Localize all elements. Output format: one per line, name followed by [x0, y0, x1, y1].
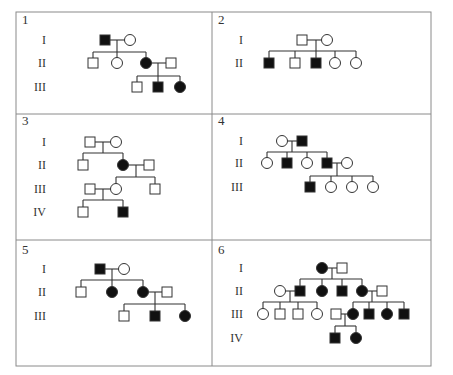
affected-female-circle-icon	[138, 287, 149, 298]
generation-label: II	[38, 56, 46, 70]
unaffected-male-square-icon	[78, 207, 88, 217]
generation-label: II	[38, 285, 46, 299]
unaffected-female-circle-icon	[330, 58, 341, 69]
affected-female-circle-icon	[141, 58, 152, 69]
affected-female-circle-icon	[317, 286, 328, 297]
unaffected-female-circle-icon	[275, 286, 286, 297]
generation-label: IV	[33, 205, 46, 219]
generation-label: I	[239, 261, 243, 275]
generation-label: IV	[230, 331, 243, 345]
pedigree-panel-6: 6IIIIIIIV	[218, 242, 409, 345]
unaffected-female-circle-icon	[326, 182, 337, 193]
affected-male-square-icon	[364, 309, 374, 319]
generation-label: I	[42, 33, 46, 47]
unaffected-male-square-icon	[377, 286, 387, 296]
panel-number: 4	[218, 113, 225, 128]
generation-label: III	[34, 182, 46, 196]
affected-male-square-icon	[305, 182, 315, 192]
unaffected-female-circle-icon	[368, 182, 379, 193]
pedigree-table-svg: 1IIIIII2III3IIIIIIIV4IIIIII5IIIIII6IIIII…	[0, 0, 453, 375]
affected-male-square-icon	[264, 58, 274, 68]
generation-label: I	[239, 33, 243, 47]
generation-label: III	[34, 80, 46, 94]
unaffected-female-circle-icon	[312, 309, 323, 320]
affected-male-square-icon	[311, 58, 321, 68]
affected-male-square-icon	[297, 136, 307, 146]
unaffected-male-square-icon	[132, 82, 142, 92]
generation-label: III	[231, 180, 243, 194]
unaffected-male-square-icon	[85, 184, 95, 194]
pedigree-panel-1: 1IIIIII	[22, 12, 186, 94]
unaffected-female-circle-icon	[351, 58, 362, 69]
unaffected-female-circle-icon	[125, 35, 136, 46]
pedigree-figure: 1IIIIII2III3IIIIIIIV4IIIIII5IIIIII6IIIII…	[0, 0, 453, 375]
unaffected-male-square-icon	[78, 160, 88, 170]
affected-male-square-icon	[337, 286, 347, 296]
unaffected-female-circle-icon	[111, 137, 122, 148]
affected-male-square-icon	[322, 158, 332, 168]
unaffected-female-circle-icon	[119, 264, 130, 275]
affected-female-circle-icon	[357, 286, 368, 297]
affected-male-square-icon	[295, 286, 305, 296]
panel-number: 1	[22, 12, 29, 27]
generation-label: II	[235, 284, 243, 298]
affected-male-square-icon	[95, 264, 105, 274]
panel-number: 5	[22, 242, 29, 257]
unaffected-female-circle-icon	[347, 182, 358, 193]
unaffected-male-square-icon	[119, 311, 129, 321]
unaffected-male-square-icon	[166, 58, 176, 68]
unaffected-female-circle-icon	[277, 136, 288, 147]
unaffected-female-circle-icon	[111, 184, 122, 195]
unaffected-female-circle-icon	[302, 158, 313, 169]
pedigree-panel-5: 5IIIIII	[22, 242, 191, 323]
panel-number: 3	[22, 113, 29, 128]
generation-label: II	[235, 56, 243, 70]
unaffected-male-square-icon	[76, 287, 86, 297]
generation-label: II	[38, 158, 46, 172]
unaffected-female-circle-icon	[112, 58, 123, 69]
pedigree-panel-2: 2III	[218, 12, 362, 70]
unaffected-female-circle-icon	[322, 35, 333, 46]
unaffected-female-circle-icon	[342, 158, 353, 169]
relationship-lines	[263, 268, 404, 333]
unaffected-female-circle-icon	[262, 158, 273, 169]
unaffected-male-square-icon	[297, 35, 307, 45]
affected-male-square-icon	[282, 158, 292, 168]
affected-male-square-icon	[150, 311, 160, 321]
generation-label: I	[239, 134, 243, 148]
generation-label: III	[231, 307, 243, 321]
unaffected-female-circle-icon	[258, 309, 269, 320]
panel-number: 6	[218, 242, 225, 257]
affected-female-circle-icon	[180, 311, 191, 322]
unaffected-male-square-icon	[275, 309, 285, 319]
panel-number: 2	[218, 12, 225, 27]
unaffected-male-square-icon	[290, 58, 300, 68]
affected-male-square-icon	[118, 207, 128, 217]
generation-label: III	[34, 309, 46, 323]
unaffected-male-square-icon	[88, 58, 98, 68]
affected-male-square-icon	[399, 309, 409, 319]
affected-female-circle-icon	[107, 287, 118, 298]
affected-male-square-icon	[153, 82, 163, 92]
pedigree-panels: 1IIIIII2III3IIIIIIIV4IIIIII5IIIIII6IIIII…	[22, 12, 409, 345]
generation-label: I	[42, 262, 46, 276]
unaffected-male-square-icon	[331, 309, 341, 319]
unaffected-male-square-icon	[162, 287, 172, 297]
pedigree-panel-4: 4IIIIII	[218, 113, 379, 194]
unaffected-male-square-icon	[144, 160, 154, 170]
unaffected-male-square-icon	[85, 137, 95, 147]
affected-female-circle-icon	[382, 309, 393, 320]
affected-female-circle-icon	[351, 333, 362, 344]
affected-male-square-icon	[330, 333, 340, 343]
affected-female-circle-icon	[317, 263, 328, 274]
generation-label: II	[235, 156, 243, 170]
affected-female-circle-icon	[118, 160, 129, 171]
generation-label: I	[42, 135, 46, 149]
affected-male-square-icon	[100, 35, 110, 45]
affected-female-circle-icon	[348, 309, 359, 320]
unaffected-male-square-icon	[150, 184, 160, 194]
affected-female-circle-icon	[175, 82, 186, 93]
unaffected-male-square-icon	[337, 263, 347, 273]
relationship-lines	[83, 142, 155, 207]
pedigree-panel-3: 3IIIIIIIV	[22, 113, 160, 219]
